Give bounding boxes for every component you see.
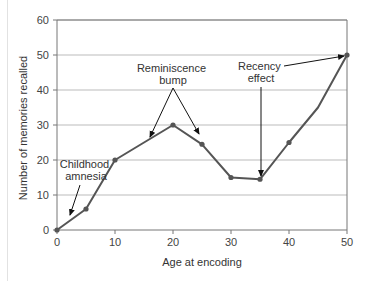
x-axis-ticks: 01020304050 <box>54 230 353 248</box>
data-point <box>286 140 291 145</box>
data-point <box>199 142 204 147</box>
line-chart: 0102030405060 01020304050 Number of memo… <box>0 0 371 281</box>
data-point <box>112 157 117 162</box>
x-tick-label: 50 <box>341 236 353 248</box>
annotation-label: Reminiscence bump <box>137 62 209 86</box>
data-series <box>54 52 349 232</box>
y-tick-label: 50 <box>37 49 49 61</box>
x-axis-title: Age at encoding <box>162 256 242 268</box>
data-point <box>170 122 175 127</box>
x-tick-label: 20 <box>167 236 179 248</box>
arrow-icon <box>70 185 80 215</box>
y-tick-label: 30 <box>37 119 49 131</box>
x-tick-label: 10 <box>109 236 121 248</box>
y-axis-ticks: 0102030405060 <box>37 14 57 236</box>
x-tick-label: 0 <box>54 236 60 248</box>
data-point <box>257 177 262 182</box>
annotation-label: Recency effect <box>238 60 284 84</box>
data-point <box>54 227 59 232</box>
data-point <box>228 175 233 180</box>
data-point <box>344 52 349 57</box>
arrow-icon <box>150 88 173 137</box>
y-tick-label: 40 <box>37 84 49 96</box>
x-tick-label: 40 <box>283 236 295 248</box>
x-tick-label: 30 <box>225 236 237 248</box>
y-tick-label: 20 <box>37 154 49 166</box>
y-tick-label: 0 <box>43 224 49 236</box>
arrow-icon <box>284 56 344 66</box>
annotation-recency-effect: Recency effect <box>238 56 344 176</box>
y-tick-label: 60 <box>37 14 49 26</box>
data-point <box>83 206 88 211</box>
y-tick-label: 10 <box>37 189 49 201</box>
y-axis-title: Number of memories recalled <box>17 56 29 200</box>
annotation-label: Childhood amnesia <box>60 158 113 182</box>
